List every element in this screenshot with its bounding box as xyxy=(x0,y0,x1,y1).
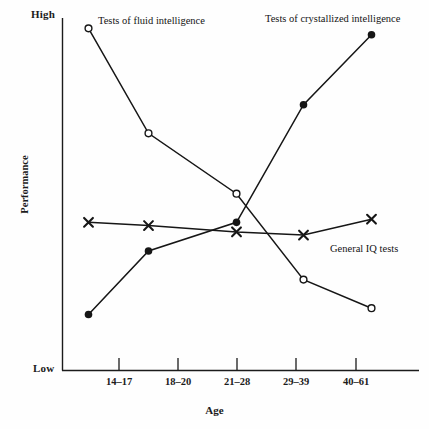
series-line xyxy=(89,35,372,315)
data-point-open-circle xyxy=(233,190,240,197)
data-point-filled-circle xyxy=(300,101,308,109)
data-point-filled-circle xyxy=(368,31,376,39)
series-tests-of-fluid-intelligence xyxy=(85,25,375,312)
data-point-open-circle xyxy=(145,130,152,137)
data-point-filled-circle xyxy=(233,219,241,227)
data-point-open-circle xyxy=(368,305,375,312)
series-general-iq-tests xyxy=(84,215,376,240)
series-tests-of-crystallized-intelligence xyxy=(85,31,376,318)
data-point-open-circle xyxy=(300,276,307,283)
plot-area xyxy=(0,0,429,429)
x-axis-ticks xyxy=(119,358,356,370)
data-point-filled-circle xyxy=(85,311,93,319)
data-point-filled-circle xyxy=(145,247,153,255)
data-series-layer xyxy=(84,25,376,318)
data-point-open-circle xyxy=(85,25,92,32)
chart-figure: Fluid and crystallized intelligence High… xyxy=(0,0,429,429)
series-line xyxy=(89,219,372,235)
series-line xyxy=(89,28,372,308)
